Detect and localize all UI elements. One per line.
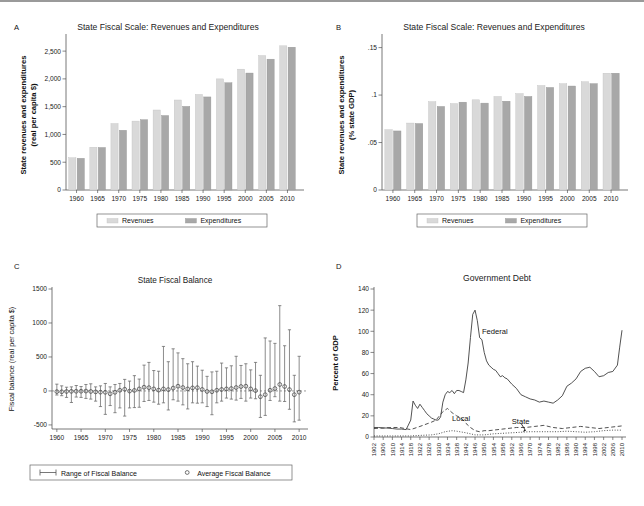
y-tick-label: 0	[365, 433, 369, 440]
panel-a-legend: RevenuesExpenditures	[97, 214, 267, 227]
top-rule	[0, 0, 644, 2]
bar-revenues	[111, 124, 118, 190]
x-tick-label: 1946	[472, 442, 478, 456]
legend-label-range: Range of Fiscal Balance	[61, 470, 137, 478]
x-tick-label: 1902	[371, 442, 377, 456]
bar-revenues	[559, 84, 566, 190]
x-tick-label: 1926	[426, 442, 432, 456]
bar-expenditures	[503, 101, 510, 190]
legend-label-expenditures: Expenditures	[200, 217, 241, 225]
bar-revenues	[538, 86, 545, 190]
y-axis-label: Fiscal balance (real per capita $)	[7, 307, 16, 411]
bar-expenditures	[415, 124, 422, 190]
x-tick-label: 1990	[195, 434, 210, 441]
bar-revenues	[153, 110, 160, 190]
x-tick-label: 1906	[380, 442, 386, 456]
x-tick-label: 2005	[582, 195, 597, 202]
y-tick-label: 120	[358, 307, 369, 314]
legend-swatch-revenues	[427, 219, 438, 224]
bar-revenues	[280, 46, 287, 190]
bar-expenditures	[546, 87, 553, 190]
panel-c-letter: C	[14, 262, 20, 271]
x-tick-label: 2010	[280, 195, 295, 202]
bar-expenditures	[481, 103, 488, 190]
series-line-state	[374, 430, 622, 436]
bar-revenues	[494, 96, 501, 190]
legend-swatch-expenditures	[505, 219, 516, 224]
x-tick-label: 1995	[538, 195, 553, 202]
x-tick-label: 1975	[132, 195, 147, 202]
annotation-local: Local	[452, 414, 470, 423]
x-tick-label: 1970	[527, 442, 533, 456]
x-tick-label: 1910	[390, 442, 396, 456]
panel-b-letter: B	[336, 23, 341, 32]
panel-c-plot: -500050010001500196019651970197519801985…	[7, 285, 308, 441]
y-axis-label: State revenues and expenditures	[337, 55, 346, 174]
x-tick-label: 1970	[98, 434, 113, 441]
y-axis-label: (% state GDP)	[347, 89, 356, 140]
x-tick-label: 1980	[473, 195, 488, 202]
x-tick-label: 1970	[111, 195, 126, 202]
y-tick-label: 20	[362, 412, 370, 419]
bar-expenditures	[568, 86, 575, 190]
bar-expenditures	[524, 96, 531, 190]
x-tick-label: 1974	[537, 442, 543, 456]
bar-revenues	[516, 94, 523, 190]
y-tick-label: 100	[358, 328, 369, 335]
x-tick-label: 2010	[604, 195, 619, 202]
bar-expenditures	[267, 59, 274, 190]
x-tick-label: 1975	[122, 434, 137, 441]
x-tick-label: 1995	[219, 434, 234, 441]
bar-revenues	[385, 130, 392, 190]
panel-a-plot: 05001,0001,5002,0002,5001960196519701975…	[19, 34, 304, 202]
bar-revenues	[259, 56, 266, 190]
x-tick-label: 1960	[50, 434, 65, 441]
y-axis-label: State revenues and expenditures	[19, 55, 28, 174]
bar-revenues	[581, 82, 588, 190]
x-tick-label: 2000	[560, 195, 575, 202]
panel-c-title: State Fiscal Balance	[138, 276, 213, 285]
x-tick-label: 1985	[171, 434, 186, 441]
x-tick-label: 1990	[196, 195, 211, 202]
y-tick-label: 0	[43, 387, 47, 394]
bar-expenditures	[459, 102, 466, 190]
annotation-federal: Federal	[482, 327, 508, 336]
panel-d-plot: 0204060801001201401902190619101914191819…	[331, 285, 626, 456]
y-tick-label: 2,500	[44, 48, 61, 55]
x-tick-label: 1998	[592, 442, 598, 456]
panel-d: D Government Debt 0204060801001201401902…	[322, 253, 644, 506]
y-tick-label: 0	[57, 186, 61, 193]
x-tick-label: 1980	[146, 434, 161, 441]
x-tick-label: 1914	[399, 442, 405, 456]
bar-expenditures	[204, 97, 211, 190]
series-line-local	[374, 408, 622, 431]
y-tick-label: 2,000	[44, 75, 61, 82]
legend-label-expenditures: Expenditures	[520, 217, 561, 225]
x-tick-label: 1965	[90, 195, 105, 202]
y-tick-label: -500	[34, 421, 48, 428]
x-tick-label: 1922	[417, 442, 423, 456]
panel-b-svg: B State Fiscal Scale: Revenues and Expen…	[322, 18, 644, 253]
x-tick-label: 2002	[601, 442, 607, 456]
x-tick-label: 1980	[154, 195, 169, 202]
legend-label-revenues: Revenues	[442, 217, 474, 224]
bar-expenditures	[98, 148, 105, 191]
y-tick-label: 500	[50, 159, 61, 166]
bar-revenues	[90, 147, 97, 190]
panel-a: A State Fiscal Scale: Revenues and Expen…	[0, 18, 322, 253]
x-tick-label: 1970	[429, 195, 444, 202]
bar-expenditures	[590, 84, 597, 190]
y-tick-label: 1000	[32, 319, 47, 326]
bar-revenues	[407, 123, 414, 190]
x-tick-label: 2005	[268, 434, 283, 441]
bar-revenues	[237, 69, 244, 190]
annotation-state: State	[512, 417, 530, 426]
x-tick-label: 1960	[69, 195, 84, 202]
panel-a-letter: A	[14, 23, 20, 32]
y-tick-label: .15	[368, 44, 377, 51]
x-tick-label: 1978	[546, 442, 552, 456]
bar-revenues	[174, 100, 181, 190]
bar-expenditures	[437, 106, 444, 190]
legend-label-average: Average Fiscal Balance	[197, 470, 271, 478]
x-tick-label: 1958	[500, 442, 506, 456]
